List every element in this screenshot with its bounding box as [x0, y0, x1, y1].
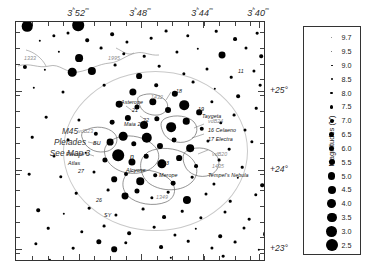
- legend-dot-cell: [324, 37, 340, 38]
- star-marker: [142, 208, 145, 211]
- nebula-label: 1995: [108, 55, 120, 62]
- legend-dot-cell: [324, 172, 340, 179]
- star-marker: [144, 154, 149, 159]
- ra-tick-label: 3ʰ44ᵐ: [191, 6, 212, 18]
- star-marker: [136, 177, 144, 185]
- star-marker: [259, 84, 262, 87]
- star-marker: [158, 65, 161, 68]
- star-marker: [68, 68, 77, 77]
- legend-entry: 5.5: [324, 155, 357, 169]
- star-marker: [171, 181, 176, 186]
- star-marker: [150, 37, 153, 40]
- star-marker: [114, 64, 117, 67]
- star-marker: [191, 176, 194, 179]
- star-marker: [127, 231, 131, 235]
- star-marker: [162, 215, 166, 219]
- legend-dot-cell: [324, 78, 340, 80]
- star-marker: [153, 173, 157, 177]
- legend-magnitude-dot: [330, 105, 333, 108]
- star-marker: [36, 208, 40, 212]
- star-label: Merope: [159, 172, 178, 179]
- legend-dot-cell: [324, 92, 340, 95]
- star-marker: [85, 38, 89, 42]
- star-marker: [88, 207, 91, 210]
- star-marker: [206, 68, 209, 71]
- legend-magnitude-dot: [327, 213, 337, 223]
- star-marker: [31, 136, 34, 139]
- legend-magnitude-dot: [331, 51, 332, 52]
- ra-tick-label: 3ʰ52ᵐ: [67, 6, 88, 18]
- legend-magnitude-dot: [328, 186, 336, 194]
- star-marker: [172, 138, 177, 143]
- star-label: 19: [198, 106, 204, 113]
- legend-dot-cell: [324, 119, 340, 123]
- legend-magnitude-value: 5.0: [342, 172, 358, 181]
- star-marker: [228, 148, 231, 151]
- legend-magnitude-value: 2.5: [342, 241, 358, 250]
- legend-entry-list: 9.79.59.08.58.07.57.06.56.05.55.04.54.03…: [324, 31, 357, 250]
- legend-magnitude-dot: [330, 92, 333, 95]
- legend-dot-cell: [324, 132, 340, 137]
- star-label: 23: [163, 160, 169, 167]
- legend-magnitude-value: 4.0: [342, 199, 358, 208]
- star-marker: [255, 107, 258, 110]
- star-marker: [159, 245, 163, 249]
- star-marker: [215, 30, 218, 33]
- legend-entry: 3.5: [324, 211, 357, 225]
- star-marker: [45, 116, 48, 119]
- star-marker: [107, 189, 110, 192]
- star-marker: [166, 122, 176, 132]
- object-title-line-1: M45: [34, 126, 106, 137]
- legend-magnitude-dot: [331, 37, 332, 38]
- legend-entry: 8.0: [324, 86, 357, 100]
- star-marker: [119, 132, 128, 141]
- legend-entry: 7.0: [324, 114, 357, 128]
- star-marker: [72, 21, 84, 31]
- nebula-label: 1432: [151, 94, 163, 101]
- star-marker: [256, 32, 259, 35]
- legend-dot-cell: [324, 186, 340, 194]
- legend-dot-cell: [324, 146, 340, 151]
- star-label: 22: [143, 117, 149, 124]
- star-marker: [263, 231, 265, 237]
- star-chart-root: 3ʰ52ᵐ3ʰ48ᵐ3ʰ44ᵐ3ʰ40ᵐ +25°+24°+23°: [0, 0, 374, 278]
- star-marker: [179, 100, 189, 110]
- star-label: 21: [132, 107, 138, 114]
- object-title-line-2: Pleiades: [34, 137, 106, 148]
- legend-entry: 4.0: [324, 197, 357, 211]
- star-marker: [165, 107, 171, 113]
- legend-magnitude-value: 6.0: [342, 144, 358, 153]
- star-marker: [154, 83, 158, 87]
- object-title-line-3: See Map 3: [34, 148, 106, 159]
- star-label: 26: [96, 197, 102, 204]
- star-marker: [260, 183, 264, 187]
- star-marker: [218, 159, 221, 162]
- star-marker: [194, 164, 198, 168]
- star-marker: [103, 84, 106, 87]
- legend-magnitude-value: 6.5: [342, 130, 358, 139]
- star-marker: [233, 114, 236, 117]
- legend-magnitude-value: 3.0: [342, 227, 358, 236]
- star-marker: [110, 120, 115, 125]
- legend-magnitude-value: 5.5: [342, 158, 358, 167]
- legend-magnitude-dot: [329, 132, 334, 137]
- legend-dot-cell: [324, 239, 340, 251]
- star-marker: [111, 246, 117, 252]
- nebula-label: 1349: [156, 194, 168, 201]
- star-label: 27: [78, 168, 84, 175]
- star-marker: [205, 193, 208, 196]
- star-marker: [136, 73, 142, 79]
- legend-magnitude-value: 9.7: [342, 33, 358, 42]
- legend-magnitude-dot: [331, 78, 333, 80]
- star-marker: [112, 149, 124, 161]
- star-marker: [62, 91, 65, 94]
- star-label: 11: [238, 68, 244, 75]
- star-marker: [243, 227, 246, 230]
- star-marker: [230, 76, 233, 79]
- legend-magnitude-value: 7.5: [342, 102, 358, 111]
- star-marker: [75, 54, 83, 62]
- legend-magnitude-value: 7.0: [342, 116, 358, 125]
- star-label: 18: [176, 88, 182, 95]
- star-marker: [143, 55, 146, 58]
- legend-entry: 6.5: [324, 128, 357, 142]
